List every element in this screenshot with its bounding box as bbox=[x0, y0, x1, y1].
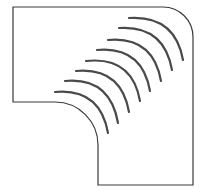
l-shaped-plate-diagram bbox=[0, 0, 202, 195]
plate-outline bbox=[13, 7, 193, 185]
curved-slots bbox=[55, 18, 183, 133]
slot-1 bbox=[55, 92, 108, 133]
